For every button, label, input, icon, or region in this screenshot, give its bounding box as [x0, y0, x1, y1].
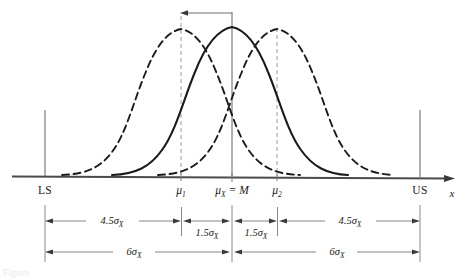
dim-ls-to-mu1-arrow-left [45, 219, 53, 224]
dim-mu2-to-us-label: 4.5σX [339, 215, 362, 229]
dimension-extension-lines [45, 205, 420, 262]
normal-curves-diagram: LS US x μ1 μX = M μ2 4.5σX [0, 0, 475, 280]
x-axis-arrowhead [444, 175, 455, 182]
dim-mu1-to-center-value: 1.5σ [196, 227, 215, 238]
dim-ls-to-mu1-label: 4.5σX [101, 215, 124, 229]
dim-ls-to-center: 6σX [45, 246, 230, 260]
x-axis-name: x [449, 187, 455, 199]
dim-mu2-to-us-value: 4.5σ [339, 215, 358, 226]
dim-ls-to-mu1: 4.5σX [45, 215, 181, 229]
dim-mu1-to-center-label: 1.5σX [196, 227, 219, 241]
mu-x-center-label: μX = M [214, 184, 250, 199]
dim-center-to-mu2-label: 1.5σX [245, 227, 268, 241]
dim-ls-to-center-label: 6σX [126, 246, 141, 260]
dim-center-to-us: 6σX [234, 246, 420, 260]
dim-mu1-to-center: 1.5σX [183, 219, 230, 241]
x-axis-line [12, 177, 448, 179]
dim-center-to-us-label: 6σX [329, 246, 344, 260]
dim-mu1-to-center-arrow-right [222, 219, 230, 224]
dim-center-to-us-arrow-left [234, 250, 242, 255]
dim-center-to-mu2: 1.5σX [234, 219, 277, 241]
mu-2-label: μ2 [271, 184, 282, 199]
curve-center [112, 27, 348, 175]
dim-ls-to-center-arrow-left [45, 250, 53, 255]
dim-mu2-to-us-subscript: X [356, 220, 362, 229]
mean-shift-arrow [180, 10, 232, 15]
mean-shift-arrowhead [180, 10, 188, 15]
dim-ls-to-mu1-value: 4.5σ [101, 215, 120, 226]
dim-center-to-us-arrow-right [412, 250, 420, 255]
dim-ls-to-center-subscript: X [136, 251, 142, 260]
dim-center-to-mu2-arrow-right [269, 219, 277, 224]
mu-1-subscript: 1 [182, 190, 186, 199]
mu-2-subscript: 2 [278, 190, 282, 199]
dim-center-to-mu2-arrow-left [234, 219, 242, 224]
dim-mu1-to-center-subscript: X [213, 232, 219, 241]
lower-spec-limit-label: LS [38, 184, 52, 196]
dim-mu2-to-us-arrow-left [279, 219, 287, 224]
dim-center-to-us-subscript: X [339, 251, 345, 260]
dim-ls-to-mu1-subscript: X [118, 220, 124, 229]
dim-mu2-to-us: 4.5σX [279, 215, 420, 229]
curve-mu2 [158, 29, 394, 175]
dim-center-to-mu2-value: 1.5σ [245, 227, 264, 238]
mu-x-suffix: = M [226, 184, 251, 196]
dim-ls-to-mu1-arrow-right [173, 219, 181, 224]
figure-caption: Figure [0, 266, 475, 280]
mu-1-label: μ1 [175, 184, 186, 199]
upper-spec-limit-label: US [412, 184, 428, 196]
dim-mu1-to-center-arrow-left [183, 219, 191, 224]
dim-mu2-to-us-arrow-right [412, 219, 420, 224]
dim-ls-to-center-arrow-right [222, 250, 230, 255]
figure-container: LS US x μ1 μX = M μ2 4.5σX [0, 0, 475, 280]
dim-center-to-mu2-subscript: X [262, 232, 268, 241]
